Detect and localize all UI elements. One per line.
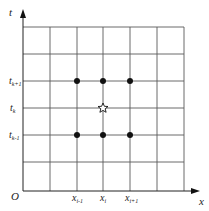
x-axis-arrow-icon	[191, 188, 200, 194]
x-tick-i-plus-1: xi+1	[124, 192, 138, 204]
stencil-diagram: t x O tk+1 tk tk-1 xi-1 xi xi+1	[0, 0, 209, 211]
dot-marker-icon	[127, 132, 133, 138]
dot-marker-icon	[100, 132, 106, 138]
t-tick-k-plus-1: tk+1	[9, 75, 22, 87]
dot-marker-icon	[100, 78, 106, 84]
origin-label: O	[11, 190, 19, 202]
x-axis-label: x	[198, 195, 204, 207]
t-axis-arrow-icon	[20, 9, 26, 18]
t-tick-k: tk	[10, 102, 16, 114]
dot-marker-icon	[74, 132, 80, 138]
x-tick-i: xi	[99, 192, 106, 204]
t-axis-label: t	[9, 6, 13, 18]
axes	[23, 16, 193, 191]
dot-marker-icon	[74, 78, 80, 84]
x-tick-i-minus-1: xi-1	[71, 192, 83, 204]
dot-marker-icon	[127, 78, 133, 84]
t-tick-k-minus-1: tk-1	[9, 129, 19, 141]
star-marker-icon	[98, 103, 108, 112]
